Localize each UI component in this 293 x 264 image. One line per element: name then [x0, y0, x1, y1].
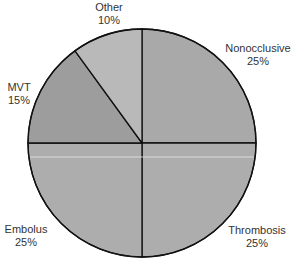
label-other-value: 10%: [95, 14, 123, 27]
label-thrombosis-name: Thrombosis: [228, 224, 285, 237]
label-other: Other 10%: [95, 1, 123, 27]
label-embolus-value: 25%: [5, 236, 48, 249]
label-embolus: Embolus 25%: [5, 223, 48, 249]
label-thrombosis: Thrombosis 25%: [228, 224, 285, 250]
label-mvt-name: MVT: [7, 81, 30, 94]
label-mvt: MVT 15%: [7, 81, 30, 107]
label-other-name: Other: [95, 1, 123, 14]
label-thrombosis-value: 25%: [228, 237, 285, 250]
label-nonocclusive: Nonocclusive 25%: [225, 42, 290, 68]
label-mvt-value: 15%: [7, 94, 30, 107]
label-nonocclusive-value: 25%: [225, 55, 290, 68]
label-nonocclusive-name: Nonocclusive: [225, 42, 290, 55]
label-embolus-name: Embolus: [5, 223, 48, 236]
